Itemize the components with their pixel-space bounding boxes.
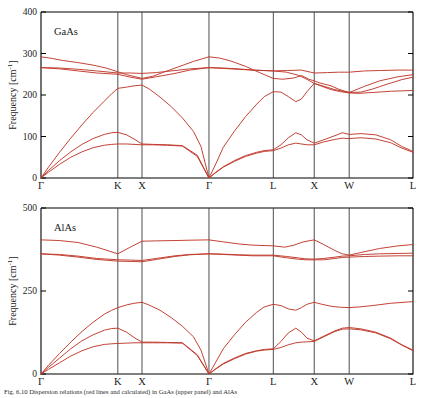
phonon-dispersion-figure: 0100200300400ΓKXΓLXWLFrequency [cm-1]GaA…	[0, 0, 425, 398]
x-tick-label: K	[114, 180, 122, 191]
y-tick-label: 0	[32, 369, 37, 379]
y-tick-label: 0	[32, 173, 37, 183]
y-tick-label: 300	[23, 49, 38, 59]
y-axis-title: Frequency [cm-1]	[6, 60, 18, 129]
x-tick-label: L	[410, 180, 416, 191]
x-tick-label: K	[114, 376, 122, 387]
y-tick-label: 500	[23, 203, 38, 213]
x-tick-label: L	[410, 376, 416, 387]
y-tick-label: 200	[23, 90, 38, 100]
panel-title: GaAs	[54, 26, 78, 37]
x-tick-label: Γ	[206, 376, 212, 387]
x-tick-label: Γ	[38, 376, 44, 387]
y-tick-label: 250	[23, 286, 38, 296]
x-tick-label: W	[344, 376, 354, 387]
figure-container: 0100200300400ΓKXΓLXWLFrequency [cm-1]GaA…	[0, 0, 425, 398]
x-tick-label: L	[270, 376, 276, 387]
x-tick-label: L	[270, 180, 276, 191]
figure-caption: Fig. 6.10 Dispersion relations (red line…	[4, 388, 421, 396]
x-tick-label: Γ	[206, 180, 212, 191]
figure-background	[0, 0, 425, 398]
x-tick-label: X	[138, 376, 146, 387]
y-tick-label: 100	[23, 132, 38, 142]
y-axis-title: Frequency [cm-1]	[6, 256, 18, 325]
y-tick-label: 400	[23, 7, 38, 17]
x-tick-label: W	[344, 180, 354, 191]
panel-title: AlAs	[54, 222, 76, 233]
x-tick-label: Γ	[38, 180, 44, 191]
x-tick-label: X	[310, 376, 318, 387]
x-tick-label: X	[138, 180, 146, 191]
x-tick-label: X	[310, 180, 318, 191]
